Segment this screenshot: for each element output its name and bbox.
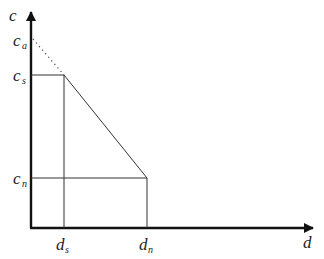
cost-slope-line	[64, 75, 147, 178]
tick-label-ds: d s	[56, 235, 69, 255]
svg-text:d: d	[139, 235, 148, 254]
svg-text:d: d	[56, 235, 65, 254]
x-axis-label: d	[303, 233, 312, 252]
svg-text:c: c	[13, 31, 21, 50]
svg-text:c: c	[13, 169, 21, 188]
tick-label-cs: c s	[13, 66, 26, 86]
svg-text:n: n	[148, 244, 153, 255]
svg-text:n: n	[22, 178, 27, 189]
y-axis-label: c	[9, 6, 17, 25]
svg-text:s: s	[22, 75, 26, 86]
svg-text:a: a	[22, 40, 27, 51]
extrapolation-dotted-line	[33, 39, 64, 75]
tick-label-dn: d n	[139, 235, 153, 255]
cost-distance-diagram: c d c a c s c n d s d n	[0, 0, 324, 259]
tick-label-ca: c a	[13, 31, 27, 51]
svg-text:c: c	[13, 66, 21, 85]
tick-label-cn: c n	[13, 169, 27, 189]
svg-text:s: s	[65, 244, 69, 255]
